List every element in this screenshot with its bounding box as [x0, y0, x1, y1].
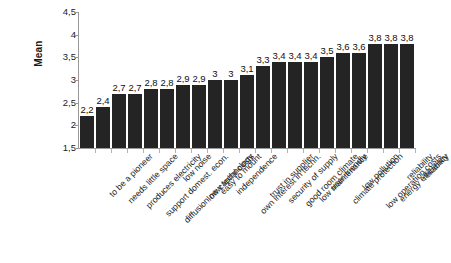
bar-value-label: 3,8	[395, 33, 419, 43]
y-axis-tick-label: 3	[44, 75, 76, 85]
bar	[175, 85, 191, 148]
bar	[127, 94, 143, 148]
x-axis-line	[78, 148, 416, 149]
bar	[271, 62, 287, 148]
bar	[303, 62, 319, 148]
bar	[287, 62, 303, 148]
bar-value-label: 2,4	[91, 96, 115, 106]
bar	[239, 75, 255, 148]
y-axis-tick-label: 4,5	[44, 7, 76, 17]
y-axis-tick-label: 2,5	[44, 98, 76, 108]
bar	[159, 89, 175, 148]
bar-value-label: 3,6	[347, 42, 371, 52]
bar	[383, 44, 399, 148]
y-axis-tick-labels: 4,543,532,521,5	[44, 12, 76, 148]
x-axis-category-labels: to be a pioneerneeds little spaceproduce…	[0, 152, 437, 263]
bar	[79, 116, 95, 148]
plot-area: 2,22,42,72,72,82,82,92,9333,13,33,43,43,…	[79, 12, 415, 148]
bar	[351, 53, 367, 148]
y-axis-tick-label: 3,5	[44, 52, 76, 62]
bar	[367, 44, 383, 148]
bar	[399, 44, 415, 148]
y-axis-tick-mark	[75, 148, 79, 149]
bar-value-label: 3,1	[235, 64, 259, 74]
bar	[191, 85, 207, 148]
bar	[143, 89, 159, 148]
bar-value-label: 2,2	[75, 105, 99, 115]
y-axis-tick-label: 2	[44, 120, 76, 130]
bar	[335, 53, 351, 148]
bar	[223, 80, 239, 148]
bar	[207, 80, 223, 148]
y-axis-title: Mean	[33, 26, 44, 82]
bar	[255, 66, 271, 148]
bar	[319, 57, 335, 148]
y-axis-tick-label: 4	[44, 30, 76, 40]
